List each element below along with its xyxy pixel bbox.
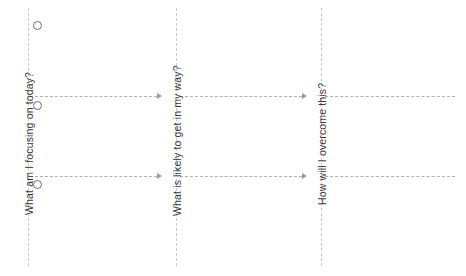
connector-row2-segment3 [325, 176, 455, 177]
circle-marker-1[interactable] [33, 21, 42, 30]
arrowhead-row2-segment1 [157, 173, 162, 179]
arrowhead-row1-segment1 [157, 93, 162, 99]
connector-row1-segment2 [180, 96, 302, 97]
column-heading-obstacles: What is likely to get in my way? [172, 65, 183, 216]
connector-row1-segment3 [325, 96, 455, 97]
column-heading-focus: What am I focusing on today? [24, 72, 35, 215]
worksheet-canvas: What am I focusing on today? What is lik… [0, 0, 466, 276]
connector-row2-segment2 [180, 176, 302, 177]
arrowhead-row1-segment2 [302, 93, 307, 99]
connector-row2-segment1 [30, 176, 157, 177]
arrowhead-row2-segment2 [302, 173, 307, 179]
connector-row1-segment1 [30, 96, 157, 97]
column-heading-overcome: How will I overcome this? [317, 83, 328, 205]
